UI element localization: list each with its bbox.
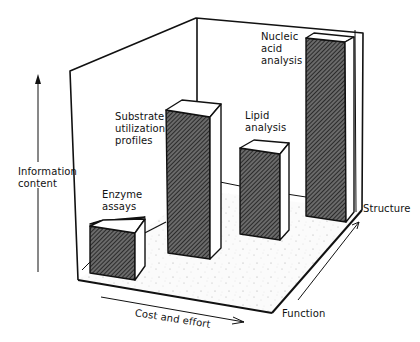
y-axis-label-line-2: content (18, 178, 77, 190)
bar-lipid-analysis (240, 140, 289, 240)
bar-enzyme-assays (90, 217, 145, 280)
bar-label-substrate-utilization-profiles: Substrate utilization profiles (115, 111, 165, 147)
bar-label-line: Lipid (245, 110, 286, 122)
bar-label-line: analysis (261, 55, 302, 67)
bar-label-line: Nucleic (261, 31, 302, 43)
bar-label-line: profiles (115, 135, 165, 147)
depth-axis-label-function: Function (282, 308, 325, 320)
bar-label-line: acid (261, 43, 302, 55)
bar-label-line: Substrate (115, 111, 165, 123)
bar-label-line: assays (102, 201, 142, 213)
bar-label-enzyme-assays: Enzyme assays (102, 189, 142, 213)
bar-nucleic-acid-analysis (306, 33, 354, 222)
bar-label-line: utilization (115, 123, 165, 135)
y-axis-label: Information content (18, 166, 77, 190)
bar-label-line: Enzyme (102, 189, 142, 201)
bar-label-line: analysis (245, 122, 286, 134)
depth-axis-label-structure: Structure (363, 203, 410, 215)
bar-substrate-utilization-profiles (166, 100, 221, 259)
bar-label-lipid-analysis: Lipid analysis (245, 110, 286, 134)
bar-label-nucleic-acid-analysis: Nucleic acid analysis (261, 31, 302, 67)
y-axis-label-line-1: Information (18, 166, 77, 178)
